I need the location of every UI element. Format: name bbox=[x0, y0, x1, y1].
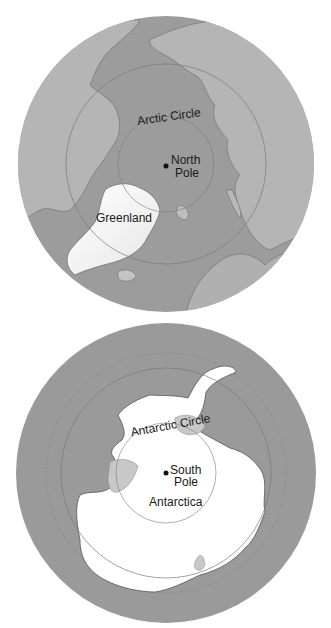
greenland-label: Greenland bbox=[96, 211, 152, 225]
north-pole-marker bbox=[164, 164, 169, 169]
south-pole-label-line2: Pole bbox=[174, 475, 198, 489]
arctic-map: Arctic Circle North Pole Greenland bbox=[0, 0, 331, 318]
north-pole-label-line1: North bbox=[171, 153, 200, 167]
north-pole-label-line2: Pole bbox=[175, 166, 199, 180]
south-pole-marker bbox=[164, 471, 169, 476]
antarctica-label: Antarctica bbox=[149, 495, 203, 509]
antarctic-map: Antarctic Circle South Pole Antarctica bbox=[0, 318, 331, 628]
